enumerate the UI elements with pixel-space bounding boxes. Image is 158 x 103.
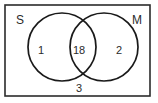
set-label-m: M (132, 13, 142, 27)
region-value-m-only: 2 (116, 44, 122, 56)
region-value-s-only: 1 (38, 44, 44, 56)
region-value-intersection: 18 (73, 44, 85, 56)
set-label-s: S (16, 13, 24, 27)
venn-diagram: S M 1 18 2 3 (0, 0, 158, 103)
region-value-outside: 3 (76, 82, 82, 94)
